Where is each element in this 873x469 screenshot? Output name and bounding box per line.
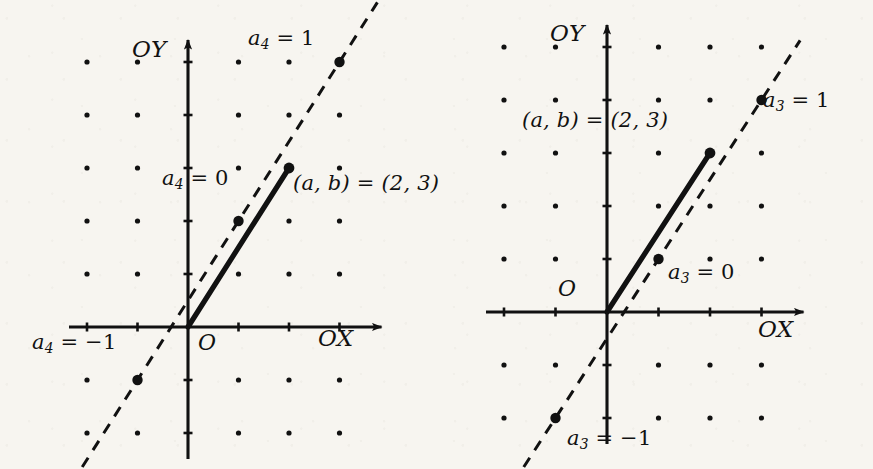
lattice-dot-group: [84, 59, 342, 435]
lattice-plot-left: [0, 0, 440, 469]
lattice-dot: [656, 203, 661, 208]
lattice-dot: [236, 59, 241, 64]
axis-label-ox-left: OX: [318, 327, 353, 350]
lattice-dot: [707, 97, 712, 102]
label-a3-eq-1-subscript: 3: [776, 98, 785, 114]
label-a4-eq-minus1-symbol: a: [32, 330, 45, 354]
lattice-dot: [656, 97, 661, 102]
label-a4-eq-0: a4 = 0: [162, 168, 229, 192]
label-a3-eq-minus1-value: = −1: [589, 426, 652, 450]
lattice-dot: [707, 203, 712, 208]
lattice-dot: [84, 165, 89, 170]
lattice-dot: [553, 97, 558, 102]
marked-lattice-point: [233, 216, 243, 226]
lattice-dot: [656, 362, 661, 367]
axis-label-oy-right: OY: [550, 22, 584, 45]
lattice-dot: [337, 112, 342, 117]
label-vector-point-left: (a, b) = (2, 3): [293, 173, 439, 194]
lattice-dot: [135, 165, 140, 170]
lattice-dot: [337, 165, 342, 170]
label-a3-eq-0-value: = 0: [690, 260, 735, 284]
label-a3-eq-0-subscript: 3: [681, 270, 690, 286]
lattice-dot: [286, 112, 291, 117]
label-vector-point-right: (a, b) = (2, 3): [522, 110, 668, 131]
vector-segment: [607, 153, 710, 312]
lattice-diagram-a4: a4 = 1 a4 = 0 a4 = −1 (a, b) = (2, 3) OX…: [0, 0, 440, 469]
label-a3-eq-0: a3 = 0: [668, 262, 735, 286]
lattice-dot: [759, 150, 764, 155]
label-a4-eq-1: a4 = 1: [248, 28, 315, 52]
lattice-dot: [759, 362, 764, 367]
lattice-dot: [759, 256, 764, 261]
dashed-line: [524, 40, 800, 467]
lattice-dot: [553, 150, 558, 155]
label-a4-eq-0-subscript: 4: [175, 176, 184, 192]
label-a3-eq-minus1: a3 = −1: [567, 428, 651, 452]
lattice-dot: [84, 430, 89, 435]
lattice-dot: [656, 150, 661, 155]
lattice-diagram-a3: a3 = 1 a3 = 0 a3 = −1 (a, b) = (2, 3) OX…: [440, 0, 873, 469]
axis-label-ox-right: OX: [758, 318, 793, 341]
lattice-dot: [236, 377, 241, 382]
lattice-dot: [501, 150, 506, 155]
label-a4-eq-minus1: a4 = −1: [32, 332, 116, 356]
lattice-dot: [707, 44, 712, 49]
lattice-dot: [656, 44, 661, 49]
origin-label-left: O: [198, 332, 216, 354]
lattice-dot: [553, 256, 558, 261]
label-a4-eq-0-value: = 0: [184, 166, 229, 190]
label-a3-eq-1: a3 = 1: [763, 90, 830, 114]
lattice-dot: [656, 415, 661, 420]
lattice-dot: [553, 362, 558, 367]
lattice-dot: [337, 271, 342, 276]
lattice-dot: [501, 203, 506, 208]
label-a3-eq-minus1-symbol: a: [567, 426, 580, 450]
axes-group: [486, 25, 804, 444]
lattice-dot: [135, 271, 140, 276]
label-a4-eq-1-value: = 1: [270, 26, 315, 50]
lattice-dot: [337, 218, 342, 223]
lattice-dot: [501, 362, 506, 367]
lattice-dot: [84, 377, 89, 382]
lattice-dot: [501, 44, 506, 49]
vector-segment: [188, 168, 289, 327]
lattice-dot: [84, 112, 89, 117]
lattice-dot: [501, 256, 506, 261]
lattice-dot: [759, 415, 764, 420]
lattice-dot: [707, 362, 712, 367]
lattice-dot: [286, 218, 291, 223]
label-a3-eq-minus1-subscript: 3: [580, 436, 589, 452]
lattice-dot: [553, 203, 558, 208]
lattice-dot: [759, 44, 764, 49]
lattice-dot: [501, 415, 506, 420]
lattice-dot: [236, 271, 241, 276]
lattice-dot: [337, 430, 342, 435]
lattice-plot-right: [440, 0, 873, 469]
vector-endpoint-dot: [705, 148, 716, 159]
lattice-dot: [286, 271, 291, 276]
origin-label-right: O: [558, 278, 576, 300]
figure-page: a4 = 1 a4 = 0 a4 = −1 (a, b) = (2, 3) OX…: [0, 0, 873, 469]
lattice-dot: [236, 430, 241, 435]
lattice-dot: [135, 430, 140, 435]
lattice-dot: [84, 271, 89, 276]
label-a4-eq-1-subscript: 4: [261, 36, 270, 52]
marked-lattice-point: [132, 375, 142, 385]
lattice-dot: [84, 59, 89, 64]
label-a3-eq-1-value: = 1: [785, 88, 830, 112]
lattice-dot: [286, 377, 291, 382]
label-a4-eq-0-symbol: a: [162, 166, 175, 190]
lattice-dot: [337, 377, 342, 382]
marked-lattice-point: [334, 57, 344, 67]
lattice-dot: [759, 203, 764, 208]
label-a4-eq-minus1-subscript: 4: [45, 340, 54, 356]
label-a4-eq-1-symbol: a: [248, 26, 261, 50]
lattice-dot: [501, 97, 506, 102]
lattice-dot: [236, 165, 241, 170]
lattice-dot: [236, 112, 241, 117]
lattice-dot-group: [501, 44, 764, 420]
axes-group: [69, 40, 382, 459]
label-a3-eq-0-symbol: a: [668, 260, 681, 284]
dashed-line: [82, 2, 377, 467]
lattice-dot: [135, 112, 140, 117]
